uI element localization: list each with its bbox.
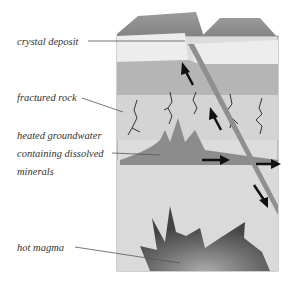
label-fractured-rock: fractured rock	[17, 90, 77, 105]
upper-rock-layer	[117, 60, 278, 95]
label-crystal-deposit: crystal deposit	[17, 34, 79, 49]
fractured-rock-layer	[117, 95, 278, 140]
label-groundwater-1: heated groundwater	[17, 128, 101, 143]
label-hot-magma: hot magma	[17, 240, 64, 255]
label-groundwater-3: minerals	[17, 164, 54, 179]
label-groundwater-2: containing dissolved	[17, 146, 104, 161]
